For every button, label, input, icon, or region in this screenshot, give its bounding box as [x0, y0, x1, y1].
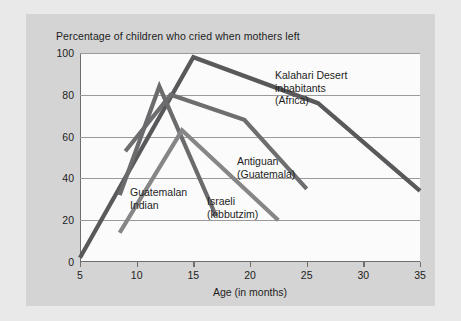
x-axis-tick-label: 10 — [131, 269, 143, 281]
series-label-israeli-line2: (kibbutzim) — [207, 208, 258, 221]
x-axis-tick-label: 5 — [77, 269, 83, 281]
x-axis-tick-label: 15 — [187, 269, 199, 281]
x-axis-tick-mark — [250, 262, 251, 267]
x-axis-tick-label: 35 — [414, 269, 426, 281]
x-axis-tick-mark — [307, 262, 308, 267]
x-axis-tick-mark — [80, 262, 81, 267]
y-axis-tick-label: 0 — [34, 256, 74, 268]
y-axis-tick-label: 80 — [34, 89, 74, 101]
x-axis-tick-mark — [193, 262, 194, 267]
x-axis-tick-mark — [420, 262, 421, 267]
series-label-israeli-line1: Israeli — [207, 195, 258, 208]
series-label-guatemalan-line2: Indian — [130, 199, 187, 212]
y-axis-tick-label: 40 — [34, 172, 74, 184]
x-axis-tick-label: 20 — [244, 269, 256, 281]
series-label-antiguan: Antiguan (Guatemala) — [237, 155, 295, 180]
series-label-antiguan-line2: (Guatemala) — [237, 168, 295, 181]
series-label-kalahari: Kalahari Desert inhabitants (Africa) — [275, 69, 347, 107]
y-axis-tick-label: 100 — [34, 47, 74, 59]
y-axis-tick-label: 60 — [34, 131, 74, 143]
figure-frame: Percentage of children who cried when mo… — [26, 14, 435, 306]
series-label-antiguan-line1: Antiguan — [237, 155, 295, 168]
x-axis-tick-mark — [137, 262, 138, 267]
x-axis-title: Age (in months) — [80, 286, 420, 298]
series-label-kalahari-line3: (Africa) — [275, 94, 347, 107]
series-label-israeli: Israeli (kibbutzim) — [207, 195, 258, 220]
x-axis-tick-label: 30 — [357, 269, 369, 281]
x-axis-tick-label: 25 — [301, 269, 313, 281]
series-label-kalahari-line1: Kalahari Desert — [275, 69, 347, 82]
x-axis-tick-mark — [363, 262, 364, 267]
series-label-kalahari-line2: inhabitants — [275, 82, 347, 95]
series-label-guatemalan-line1: Guatemalan — [130, 186, 187, 199]
series-label-guatemalan-indian: Guatemalan Indian — [130, 186, 187, 211]
chart-title: Percentage of children who cried when mo… — [56, 30, 300, 42]
y-axis-tick-label: 20 — [34, 214, 74, 226]
